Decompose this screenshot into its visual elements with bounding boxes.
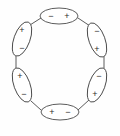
ring-diagram-canvas: −+−+−++−+−+−	[0, 0, 120, 136]
dipole-bottom-second-charge-label: −	[65, 107, 70, 117]
dipole-ring-figure: −+−+−++−+−+−	[0, 0, 120, 136]
dipole-lower-right-second-charge-label: +	[92, 89, 97, 99]
dipole-lower-left-second-charge-label: −	[21, 89, 26, 99]
dipole-upper-right-first-charge-label: −	[94, 26, 99, 36]
connector-lower-right-to-bottom	[78, 100, 89, 110]
dipole-top	[40, 8, 78, 24]
dipole-bottom-outline	[41, 104, 79, 120]
connector-upper-left-to-top	[30, 18, 41, 25]
connector-top-to-upper-right	[78, 18, 90, 26]
dipole-lower-left-first-charge-label: +	[17, 71, 22, 81]
connector-bottom-to-lower-left	[31, 101, 41, 110]
dipole-upper-right-second-charge-label: +	[94, 44, 99, 54]
dipole-lower-right-first-charge-label: −	[96, 71, 101, 81]
dipole-top-outline	[40, 8, 78, 24]
dipole-upper-left-second-charge-label: −	[19, 43, 24, 53]
dipole-top-first-charge-label: −	[48, 11, 53, 21]
dipole-top-second-charge-label: +	[64, 11, 69, 21]
dipole-group: −+−+−++−+−+−	[8, 8, 110, 120]
dipole-bottom	[41, 104, 79, 120]
dipole-bottom-first-charge-label: +	[49, 107, 54, 117]
dipole-upper-left-first-charge-label: +	[19, 25, 24, 35]
